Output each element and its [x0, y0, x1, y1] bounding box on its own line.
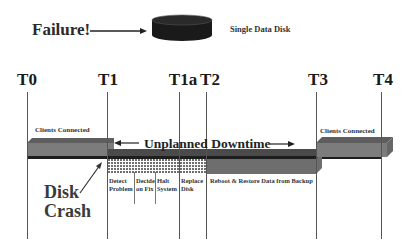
step-line2: System	[157, 185, 177, 193]
arrow-right-icon	[288, 141, 295, 147]
step-line1: Decide	[136, 177, 155, 185]
disk-crash-line1: Disk	[44, 183, 91, 202]
step-line2: on Fix	[136, 185, 155, 193]
step-line2: Disk	[181, 185, 203, 193]
timeline-line-t2	[206, 92, 207, 239]
step-replace-disk: Replace Disk	[181, 177, 203, 193]
step-decide-on-fix: Decide on Fix	[136, 177, 155, 193]
timeline-line-t0	[27, 92, 28, 239]
clients-bar-right	[316, 143, 387, 157]
clients-connected-left-label: Clients Connected	[35, 126, 90, 134]
timeline-line-t4	[381, 92, 382, 239]
step-line1: Halt	[157, 177, 177, 185]
timeline-line-t1a	[179, 92, 180, 239]
step-line1: Replace	[181, 177, 203, 185]
unplanned-downtime-label: Unplanned Downtime	[144, 136, 270, 152]
timeline-line-t3	[316, 92, 317, 239]
timeline-line-t1	[107, 92, 108, 239]
dotted-region	[107, 159, 206, 174]
clients-connected-right-label: Clients Connected	[320, 127, 375, 135]
step-detect-problem: Detect Problem	[109, 177, 133, 193]
arrow-up-right-icon	[96, 162, 102, 169]
step-separator-1	[134, 172, 135, 204]
arrow-left-icon	[114, 140, 121, 146]
clients-bar-left-top	[27, 138, 114, 143]
restore-label: Reboot & Restore Data from Backup	[210, 177, 313, 185]
step-halt-system: Halt System	[157, 177, 177, 193]
step-line1: Detect	[109, 177, 133, 185]
disk-crash-line2: Crash	[44, 202, 91, 221]
step-separator-2	[155, 172, 156, 204]
disk-crash-label: Disk Crash	[44, 183, 91, 221]
step-line2: Problem	[109, 185, 133, 193]
clients-bar-left	[27, 143, 114, 157]
